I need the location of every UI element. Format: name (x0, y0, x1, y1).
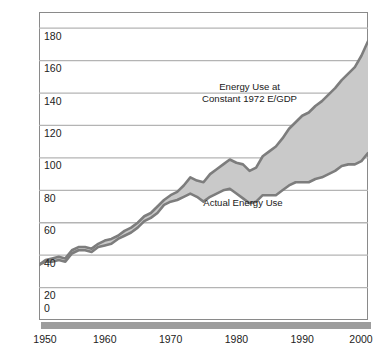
y-tick-label: 20 (44, 289, 56, 301)
x-tick-label: 1950 (33, 333, 56, 345)
y-tick-label: 180 (44, 30, 62, 42)
annotation-line-1: Actual Energy Use (203, 197, 282, 209)
y-tick-label: 140 (44, 95, 62, 107)
axis-shadow-bar (41, 322, 371, 329)
annotation-line-2: Constant 1972 E/GDP (202, 93, 297, 105)
chart-figure: Primary Energy Use (quadrillion Btus) 02… (0, 0, 383, 358)
x-tick-label: 2000 (349, 333, 372, 345)
x-tick-labels: 195019601970198019902000 (39, 333, 368, 349)
x-tick-label: 1990 (291, 333, 314, 345)
y-tick-label: 100 (44, 159, 62, 171)
x-tick-label: 1970 (159, 333, 182, 345)
x-tick-label: 1980 (225, 333, 248, 345)
y-tick-label: 40 (44, 257, 56, 269)
x-tick-label: 1960 (93, 333, 116, 345)
y-tick-label: 80 (44, 192, 56, 204)
annotation-line-1: Energy Use at (202, 81, 297, 93)
y-tick-label: 160 (44, 62, 62, 74)
area-band-between-series (39, 41, 368, 265)
chart-annotation: Energy Use atConstant 1972 E/GDP (202, 81, 297, 105)
y-tick-label: 0 (44, 302, 50, 314)
chart-canvas (39, 12, 368, 320)
chart-annotation: Actual Energy Use (203, 197, 282, 209)
plot-area: 020406080100120140160180 Energy Use atCo… (39, 12, 368, 320)
y-tick-label: 120 (44, 127, 62, 139)
y-tick-label: 60 (44, 224, 56, 236)
